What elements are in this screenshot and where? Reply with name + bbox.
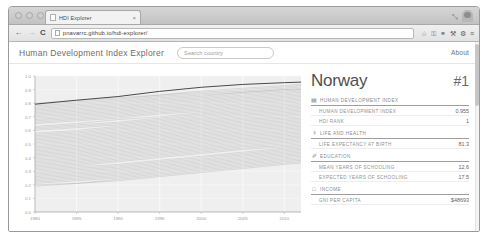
- indicator-row: HDI Rank1: [311, 116, 469, 126]
- chart-column: 0.00.10.20.30.40.50.60.70.80.91.01980198…: [9, 64, 305, 232]
- education-icon: ✐: [311, 154, 317, 160]
- tab-title: HDI Explorer: [59, 15, 130, 21]
- chart-x-tick-label: 2010: [279, 216, 289, 221]
- binoculars-icon[interactable]: ⚭: [440, 30, 446, 37]
- page-title: Human Development Index Explorer: [19, 48, 164, 58]
- chart-x-tick-label: 2005: [238, 216, 248, 221]
- browser-window: HDI Explorer × ⤡ ← → C pnavarrc.github.i…: [8, 6, 480, 232]
- section-header: □Income: [311, 187, 469, 195]
- chart-y-tick-label: 0.8: [25, 101, 32, 106]
- indicator-section: □IncomeGNI per capita$48693: [311, 187, 469, 205]
- country-name: Norway: [311, 72, 367, 89]
- close-window-icon[interactable]: [15, 12, 22, 19]
- indicator-label: Mean years of schooling: [319, 165, 395, 170]
- page-content: 0.00.10.20.30.40.50.60.70.80.91.01980198…: [9, 64, 479, 232]
- indicator-section: ▤Human Development IndexHuman Developmen…: [311, 98, 469, 126]
- expand-window-icon[interactable]: ⤡: [452, 13, 458, 20]
- chart-x-tick-label: 2000: [196, 216, 206, 221]
- chart-y-tick-label: 0.0: [25, 210, 32, 215]
- chart-y-tick-label: 1.0: [25, 74, 32, 79]
- indicator-value: $48693: [451, 197, 469, 203]
- profile-avatar-icon[interactable]: [462, 10, 473, 22]
- chart-x-tick-label: 1990: [113, 216, 123, 221]
- browser-tab[interactable]: HDI Explorer ×: [45, 10, 141, 24]
- section-header: ⚕Life and Health: [311, 131, 469, 139]
- app-navbar: Human Development Index Explorer About: [9, 42, 479, 64]
- indicator-row: Mean years of schooling12.6: [311, 162, 469, 172]
- indicator-section: ⚕Life and HealthLife expectancy at birth…: [311, 131, 469, 149]
- indicator-label: HDI Rank: [319, 119, 344, 124]
- url-text: pnavarrc.github.io/hdi-explorer/: [63, 30, 148, 36]
- window-right-controls: ⤡: [452, 10, 473, 22]
- zoom-window-icon[interactable]: [37, 12, 44, 19]
- section-title: Income: [320, 187, 341, 192]
- reload-icon[interactable]: C: [40, 29, 46, 37]
- indicator-label: Human Development Index: [319, 109, 396, 114]
- forward-button[interactable]: →: [27, 29, 36, 37]
- hdi-line-chart[interactable]: 0.00.10.20.30.40.50.60.70.80.91.01980198…: [13, 70, 305, 228]
- chart-y-tick-label: 0.1: [25, 196, 32, 201]
- indicator-label: Life expectancy at birth: [319, 142, 392, 147]
- chart-y-tick-label: 0.2: [25, 183, 32, 188]
- chart-y-tick-label: 0.6: [25, 128, 32, 133]
- indicator-value: 0.955: [456, 108, 470, 114]
- indicator-row: Expected years of schooling17.5: [311, 172, 469, 182]
- page-viewport: Human Development Index Explorer About 0…: [9, 42, 479, 232]
- chart-y-tick-label: 0.5: [25, 142, 32, 147]
- section-title: Life and Health: [320, 131, 366, 136]
- chart-y-tick-label: 0.7: [25, 115, 32, 120]
- country-header: Norway #1: [311, 72, 469, 93]
- chart-y-tick-label: 0.9: [25, 88, 32, 93]
- menu-icon[interactable]: ≡: [470, 30, 474, 37]
- indicator-section: ✐EducationMean years of schooling12.6Exp…: [311, 154, 469, 182]
- tab-favicon-icon: [50, 14, 56, 21]
- wrench-icon[interactable]: ⚒: [450, 30, 456, 37]
- tab-close-icon[interactable]: ×: [132, 15, 136, 21]
- browser-tab-strip: HDI Explorer × ⤡: [9, 7, 479, 25]
- page-scrollbar-track[interactable]: [475, 42, 479, 232]
- chart-svg[interactable]: 0.00.10.20.30.40.50.60.70.80.91.01980198…: [13, 70, 305, 228]
- indicator-value: 12.6: [459, 164, 470, 170]
- indicator-row: Life expectancy at birth81.3: [311, 139, 469, 149]
- indicator-value: 1: [466, 118, 469, 124]
- search-input[interactable]: [184, 50, 267, 56]
- section-title: Human Development Index: [320, 98, 398, 103]
- bookmark-star-icon[interactable]: ☆: [421, 30, 427, 37]
- section-header: ▤Human Development Index: [311, 98, 469, 106]
- section-header: ✐Education: [311, 154, 469, 162]
- minimize-window-icon[interactable]: [26, 12, 33, 19]
- indicator-value: 17.5: [459, 174, 470, 180]
- chart-x-tick-label: 1985: [72, 216, 82, 221]
- indicator-label: Expected years of schooling: [319, 175, 408, 180]
- indicator-value: 81.3: [459, 141, 470, 147]
- window-traffic-lights[interactable]: [15, 12, 44, 19]
- indicator-row: Human Development Index0.955: [311, 106, 469, 116]
- indicator-sections: ▤Human Development IndexHuman Developmen…: [311, 98, 469, 205]
- indicator-row: GNI per capita$48693: [311, 195, 469, 205]
- section-title: Education: [320, 154, 351, 159]
- screenshot-root: HDI Explorer × ⤡ ← → C pnavarrc.github.i…: [0, 0, 488, 238]
- page-info-icon: [55, 30, 60, 36]
- back-button[interactable]: ←: [14, 29, 23, 37]
- chart-y-tick-label: 0.3: [25, 169, 32, 174]
- country-detail-panel: Norway #1 ▤Human Development IndexHuman …: [305, 64, 479, 232]
- chart-x-tick-label: 1980: [30, 216, 40, 221]
- chart-y-tick-label: 0.4: [25, 156, 32, 161]
- key-icon[interactable]: ⚿: [431, 30, 436, 37]
- country-rank-badge: #1: [453, 74, 469, 88]
- health-icon: ⚕: [311, 131, 317, 137]
- chart-x-tick-label: 1995: [155, 216, 165, 221]
- about-link[interactable]: About: [451, 49, 469, 56]
- bar-chart-icon: ▤: [311, 98, 317, 104]
- address-bar[interactable]: pnavarrc.github.io/hdi-explorer/: [51, 28, 414, 39]
- search-country-box[interactable]: [177, 47, 274, 59]
- income-icon: □: [311, 187, 317, 193]
- indicator-label: GNI per capita: [319, 198, 361, 203]
- browser-toolbar: ← → C pnavarrc.github.io/hdi-explorer/ ☆…: [9, 25, 479, 42]
- gear-icon[interactable]: ⚙: [460, 30, 466, 37]
- page-scrollbar-thumb[interactable]: [475, 44, 479, 106]
- toolbar-icon-group: ☆ ⚿ ⚭ ⚒ ⚙ ≡: [421, 30, 474, 37]
